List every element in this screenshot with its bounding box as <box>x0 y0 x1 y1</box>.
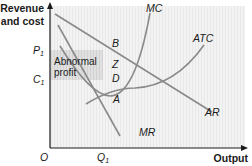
monopoly-profit-diagram: Revenue and cost Output O P1 C1 Q1 Abnor… <box>0 0 252 166</box>
abnormal-profit-label: Abnormal <box>54 56 97 67</box>
point-a-label: A <box>112 93 120 105</box>
mr-label: MR <box>139 126 156 138</box>
abnormal-profit-label-line2: profit <box>54 67 76 78</box>
point-z-label: Z <box>111 58 119 70</box>
svg-text:Q1: Q1 <box>97 151 109 164</box>
atc-label: ATC <box>192 32 214 44</box>
point-b-label: B <box>112 37 119 49</box>
origin-label: O <box>40 151 48 163</box>
c1-label: C1 <box>33 73 45 86</box>
y-axis-label: Revenue <box>0 2 44 14</box>
ar-label: AR <box>204 106 220 118</box>
y-axis-label-line2: and cost <box>1 15 45 27</box>
x-axis-label: Output <box>214 152 249 164</box>
svg-text:P1: P1 <box>33 44 44 57</box>
q1-label: Q1 <box>97 151 109 164</box>
mc-label: MC <box>146 2 163 14</box>
svg-text:C1: C1 <box>33 73 45 86</box>
point-d-label: D <box>112 72 120 84</box>
y-axis-arrow-icon <box>47 2 53 9</box>
p1-label: P1 <box>33 44 44 57</box>
